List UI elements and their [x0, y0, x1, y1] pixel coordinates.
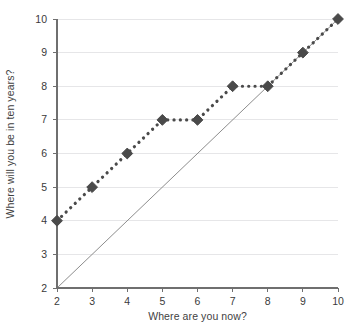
data-point-marker — [122, 148, 133, 159]
data-point-marker — [157, 114, 168, 125]
data-point-marker — [192, 114, 203, 125]
plot-area — [0, 0, 362, 335]
data-point-marker — [227, 81, 238, 92]
chart-container: Where will you be in ten years? Where ar… — [0, 0, 362, 335]
